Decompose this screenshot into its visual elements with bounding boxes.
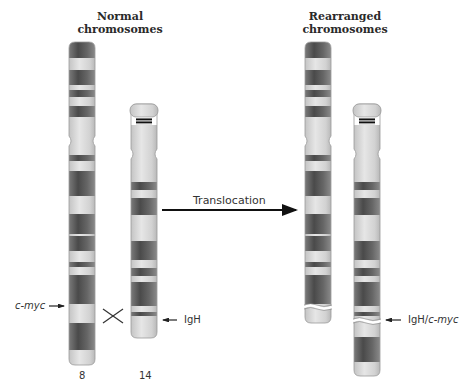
bands — [354, 125, 380, 376]
translocation-label: Translocation — [193, 194, 266, 207]
bands — [69, 42, 95, 365]
dark-band — [69, 155, 95, 161]
light-band — [69, 350, 95, 365]
light-band — [305, 161, 331, 171]
dark-band — [354, 198, 380, 215]
light-band — [354, 125, 380, 148]
light-band — [131, 225, 157, 241]
dark-band — [69, 171, 95, 196]
igh-cmyc-label: IgH/c-myc — [408, 314, 458, 325]
light-band — [305, 234, 331, 236]
light-band — [69, 117, 95, 135]
crossover-x-icon — [103, 309, 123, 323]
igh-label: IgH — [184, 314, 201, 325]
dark-band — [69, 275, 95, 304]
dark-band — [69, 106, 95, 117]
cmyc-label: c-myc — [15, 300, 45, 311]
dark-band — [131, 241, 157, 260]
light-band — [131, 175, 157, 182]
cmyc-text: c-myc — [15, 300, 45, 311]
title-line: Rearranged — [300, 10, 390, 23]
light-band — [69, 148, 95, 155]
igh-cmyc-prefix: IgH/ — [408, 314, 428, 325]
light-band — [305, 135, 331, 148]
dark-band — [305, 70, 331, 85]
light-band — [354, 225, 380, 241]
light-band — [69, 196, 95, 214]
light-band — [69, 58, 95, 70]
light-band — [69, 161, 95, 171]
stalk — [359, 117, 375, 125]
dark-band — [131, 312, 157, 316]
chr14-number: 14 — [139, 370, 152, 381]
dark-band — [131, 282, 157, 306]
light-band — [305, 251, 331, 262]
light-band — [131, 316, 157, 338]
dark-band — [131, 182, 157, 190]
light-band — [131, 306, 157, 312]
light-band — [354, 190, 380, 198]
light-band — [131, 262, 157, 268]
light-band — [305, 196, 331, 214]
dark-band — [354, 268, 380, 276]
light-band — [69, 267, 95, 275]
chr8-rearranged — [304, 42, 332, 323]
light-band — [354, 215, 380, 225]
satellite — [353, 104, 381, 117]
dark-band — [305, 236, 331, 251]
title-line: chromosomes — [300, 23, 390, 36]
light-band — [131, 190, 157, 198]
satellite — [130, 104, 158, 117]
light-band — [69, 234, 95, 236]
chr8-normal — [69, 42, 95, 365]
light-band — [354, 276, 380, 282]
dark-band — [69, 214, 95, 234]
dark-band — [354, 182, 380, 190]
light-band — [305, 97, 331, 106]
bands — [305, 42, 331, 323]
light-band — [354, 260, 380, 262]
dark-band — [305, 42, 331, 58]
rearranged-chromosomes-title: Rearranged chromosomes — [300, 10, 390, 36]
light-band — [305, 58, 331, 70]
dark-band — [69, 70, 95, 85]
stalk — [136, 117, 152, 125]
light-band — [354, 262, 380, 268]
dark-band — [305, 214, 331, 234]
dark-band — [305, 262, 331, 267]
dark-band — [69, 323, 95, 350]
light-band — [354, 306, 380, 312]
light-band — [131, 160, 157, 175]
light-band — [305, 85, 331, 90]
dark-band — [131, 198, 157, 215]
light-band — [69, 304, 95, 323]
light-band — [131, 276, 157, 282]
light-band — [131, 125, 157, 148]
bands — [131, 125, 157, 338]
light-band — [69, 135, 95, 148]
light-band — [354, 175, 380, 182]
dark-band — [354, 312, 380, 316]
light-band — [305, 267, 331, 275]
light-band — [305, 148, 331, 155]
chr14-normal — [130, 104, 158, 338]
light-band — [69, 97, 95, 106]
dark-band — [69, 42, 95, 58]
dark-band — [305, 106, 331, 117]
light-band — [305, 117, 331, 135]
light-band — [131, 260, 157, 262]
title-line: Normal — [75, 10, 165, 23]
light-band — [354, 362, 380, 376]
dark-band — [69, 90, 95, 97]
light-band — [69, 251, 95, 262]
title-line: chromosomes — [75, 23, 165, 36]
dark-band — [131, 268, 157, 276]
light-band — [131, 215, 157, 225]
dark-band — [354, 241, 380, 260]
dark-band — [354, 282, 380, 306]
dark-band — [69, 236, 95, 251]
dark-band — [69, 262, 95, 267]
light-band — [69, 85, 95, 90]
light-band — [354, 148, 380, 160]
chr8-number: 8 — [79, 370, 85, 381]
